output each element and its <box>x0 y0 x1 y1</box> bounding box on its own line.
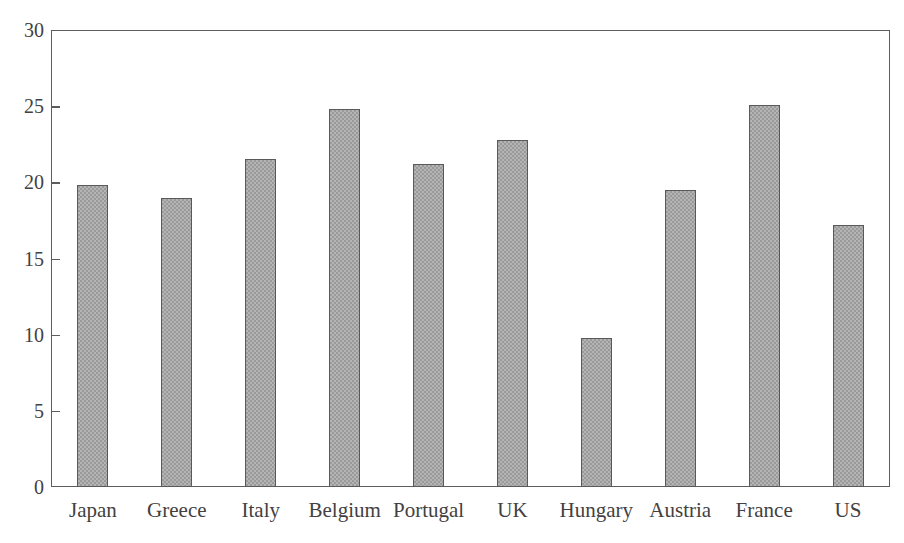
y-axis-tick-label: 5 <box>0 401 44 421</box>
bar <box>329 109 360 487</box>
x-axis-tick-label: UK <box>497 495 527 525</box>
bar-chart-figure: 051015202530 JapanGreeceItalyBelgiumPort… <box>0 0 904 543</box>
x-axis-tick-label: Belgium <box>308 495 380 525</box>
y-axis-tick-label: 20 <box>0 172 44 192</box>
y-axis-tick-label: 25 <box>0 96 44 116</box>
x-axis-tick-label: Japan <box>69 495 117 525</box>
bar <box>77 185 108 487</box>
x-axis-tick-label: France <box>736 495 793 525</box>
bar <box>161 198 192 487</box>
x-axis-tick-label: Italy <box>242 495 280 525</box>
bar <box>497 140 528 487</box>
bar <box>581 338 612 487</box>
y-axis-tick-label: 15 <box>0 249 44 269</box>
x-axis: JapanGreeceItalyBelgiumPortugalUKHungary… <box>51 495 890 535</box>
x-axis-tick-label: Hungary <box>560 495 633 525</box>
y-axis-tick-label: 10 <box>0 325 44 345</box>
x-axis-tick-label: Austria <box>649 495 711 525</box>
bar <box>833 225 864 487</box>
bar-series <box>51 30 890 487</box>
x-axis-tick-label: Portugal <box>393 495 464 525</box>
bar <box>413 164 444 487</box>
y-axis-tick-label: 30 <box>0 20 44 40</box>
x-axis-tick-label: US <box>835 495 862 525</box>
bar <box>749 105 780 487</box>
y-axis-tick-label: 0 <box>0 477 44 497</box>
chart-title <box>0 0 904 3</box>
y-axis: 051015202530 <box>0 30 44 487</box>
bar <box>245 159 276 487</box>
x-axis-tick-label: Greece <box>147 495 206 525</box>
bar <box>665 190 696 487</box>
